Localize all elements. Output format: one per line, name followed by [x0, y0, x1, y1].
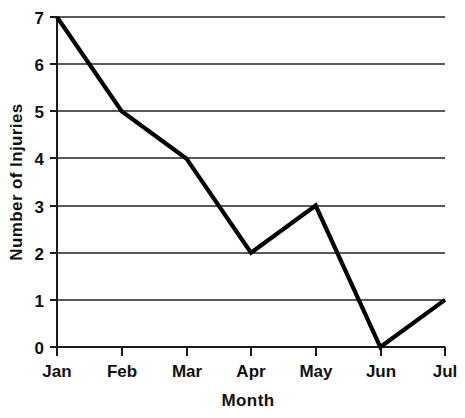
y-axis-title: Number of Injuries: [7, 103, 26, 260]
y-tick-label-2: 2: [35, 245, 44, 264]
x-tick-label-jan: Jan: [42, 362, 71, 381]
x-tick-label-jun: Jun: [366, 362, 396, 381]
line-chart-figure: 7 6 5 4 3 2 1 0 Jan Feb Mar Apr May Jun …: [0, 0, 465, 418]
y-tick-label-1: 1: [35, 292, 44, 311]
x-tick-label-may: May: [299, 362, 333, 381]
x-tick-label-jul: Jul: [433, 362, 458, 381]
y-tick-label-0: 0: [35, 339, 44, 358]
x-tick-label-feb: Feb: [107, 362, 137, 381]
x-axis-title: Month: [222, 391, 275, 410]
y-tick-label-3: 3: [35, 198, 44, 217]
chart-canvas: 7 6 5 4 3 2 1 0 Jan Feb Mar Apr May Jun …: [0, 0, 465, 418]
y-tick-label-7: 7: [35, 9, 44, 28]
x-tick-label-apr: Apr: [236, 362, 266, 381]
x-tick-label-mar: Mar: [172, 362, 203, 381]
y-tick-label-5: 5: [35, 103, 44, 122]
y-tick-label-4: 4: [35, 150, 45, 169]
chart-background: [0, 0, 465, 418]
y-tick-label-6: 6: [35, 56, 44, 75]
